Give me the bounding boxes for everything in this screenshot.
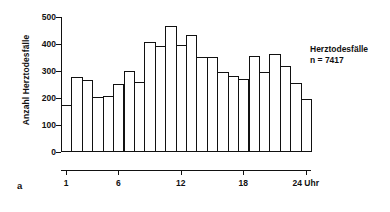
bar: [113, 84, 124, 152]
x-tick-label: 12: [176, 178, 185, 188]
bar: [249, 56, 260, 152]
x-tick-mark: [306, 170, 307, 175]
bar: [196, 57, 207, 152]
bar: [134, 82, 145, 152]
bar-series: [61, 17, 311, 152]
y-tick-label: 0: [30, 148, 56, 156]
x-tick-label: 6: [116, 178, 121, 188]
x-tick-mark: [118, 170, 119, 175]
bar: [165, 26, 176, 152]
bar: [82, 80, 93, 152]
bar: [124, 71, 135, 152]
x-tick-mark: [66, 170, 67, 175]
bar: [92, 97, 103, 152]
bar: [103, 96, 114, 152]
x-tick-mark: [243, 170, 244, 175]
bar: [217, 72, 228, 152]
bar: [259, 72, 270, 152]
annotation-block: Herztodesfälle n = 7417: [310, 44, 368, 66]
bar: [207, 57, 218, 152]
y-tick-label: 500: [30, 13, 56, 21]
y-tick-label: 200: [30, 94, 56, 102]
x-tick-label: 18: [239, 178, 248, 188]
bar: [144, 42, 155, 152]
y-tick-label: 100: [30, 121, 56, 129]
bar: [176, 45, 187, 152]
x-tick-label: 24 Uhr: [293, 178, 319, 188]
bar: [269, 54, 280, 152]
y-tick-label: 400: [30, 40, 56, 48]
y-axis-tick-labels: 0100200300400500: [30, 0, 56, 212]
annotation-line-1: Herztodesfälle: [310, 44, 368, 55]
bar: [228, 76, 239, 152]
bar: [186, 35, 197, 152]
bar: [238, 79, 249, 152]
figure: Anzahl Herztodesfälle 0100200300400500 1…: [0, 0, 390, 212]
bar: [71, 77, 82, 152]
y-tick-mark: [56, 152, 61, 153]
bar: [61, 105, 72, 152]
x-axis-line: [61, 170, 311, 171]
bar: [155, 46, 166, 152]
bar: [280, 66, 291, 152]
annotation-line-2: n = 7417: [310, 55, 368, 66]
x-tick-mark: [181, 170, 182, 175]
panel-letter: a: [17, 180, 22, 191]
bar: [290, 83, 301, 152]
y-tick-label: 300: [30, 67, 56, 75]
x-tick-label: 1: [64, 178, 69, 188]
bar: [301, 99, 312, 152]
